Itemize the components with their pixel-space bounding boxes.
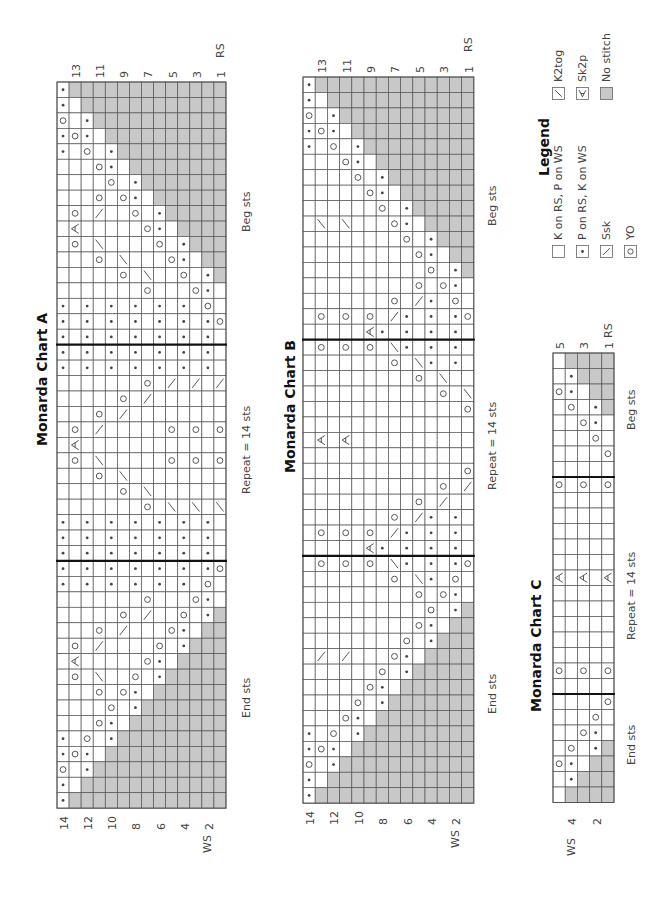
- stitch-cell: [315, 401, 327, 416]
- stitch-cell: [190, 283, 202, 298]
- stitch-cell: [602, 601, 614, 617]
- no-stitch-cell: [401, 154, 413, 169]
- stitch-cell: [81, 638, 93, 653]
- stitch-cell: [93, 484, 105, 499]
- stitch-cell: [565, 632, 577, 648]
- stitch-cell: [154, 406, 166, 421]
- stitch-cell: [69, 267, 81, 282]
- no-stitch-cell: [449, 232, 461, 247]
- stitch-cell: [388, 664, 400, 679]
- no-stitch-cell: [93, 793, 105, 808]
- stitch-cell: [69, 360, 81, 375]
- stitch-cell: [364, 680, 376, 695]
- no-stitch-cell: [178, 777, 190, 792]
- sk2p-icon: [576, 87, 589, 100]
- purl-dot-icon: [430, 516, 433, 519]
- purl-dot-icon: [594, 747, 597, 750]
- stitch-cell: [388, 602, 400, 617]
- stitch-cell: [413, 417, 425, 432]
- stitch-cell: [590, 446, 602, 462]
- stitch-cell: [190, 329, 202, 344]
- legend-label: No stitch: [600, 33, 613, 82]
- legend-item: K on RS, P on WS: [552, 145, 565, 258]
- stitch-cell: [590, 555, 602, 571]
- stitch-cell: [303, 510, 315, 525]
- stitch-cell: [105, 468, 117, 483]
- no-stitch-cell: [166, 777, 178, 792]
- no-stitch-cell: [462, 92, 474, 107]
- purl-dot-icon: [182, 336, 185, 339]
- no-stitch-cell: [425, 123, 437, 138]
- no-stitch-cell: [352, 123, 364, 138]
- stitch-cell: [340, 386, 352, 401]
- stitch-cell: [577, 539, 589, 555]
- stitch-cell: [327, 293, 339, 308]
- stitch-cell: [553, 632, 565, 648]
- purl-dot-icon: [62, 135, 65, 138]
- no-stitch-cell: [437, 139, 449, 154]
- stitch-cell: [388, 618, 400, 633]
- stitch-cell: [553, 353, 565, 369]
- no-stitch-cell: [93, 113, 105, 128]
- stitch-cell: [388, 649, 400, 664]
- stitch-cell: [315, 154, 327, 169]
- no-stitch-cell: [214, 144, 226, 159]
- stitch-cell: [141, 206, 153, 221]
- stitch-cell: [413, 633, 425, 648]
- stitch-cell: [129, 623, 141, 638]
- stitch-cell: [340, 710, 352, 725]
- stitch-cell: [315, 525, 327, 540]
- stitch-cell: [166, 360, 178, 375]
- stitch-cell: [401, 602, 413, 617]
- stitch-cell: [340, 201, 352, 216]
- stitch-cell: [602, 477, 614, 493]
- stitch-cell: [81, 592, 93, 607]
- stitch-cell: [602, 710, 614, 726]
- stitch-cell: [413, 309, 425, 324]
- stitch-cell: [93, 715, 105, 730]
- rs-row-number: 1: [215, 71, 228, 78]
- legend-item: P on RS, K on WS: [576, 145, 589, 258]
- purl-dot-icon: [134, 181, 137, 184]
- no-stitch-cell: [202, 82, 214, 97]
- stitch-cell: [577, 694, 589, 710]
- purl-dot-icon: [86, 366, 89, 369]
- purl-dot-icon: [158, 583, 161, 586]
- stitch-cell: [413, 386, 425, 401]
- stitch-cell: [154, 499, 166, 514]
- stitch-cell: [449, 448, 461, 463]
- no-stitch-cell: [214, 669, 226, 684]
- stitch-cell: [364, 232, 376, 247]
- stitch-cell: [315, 247, 327, 262]
- stitch-cell: [553, 648, 565, 664]
- stitch-cell: [462, 324, 474, 339]
- no-stitch-cell: [214, 607, 226, 622]
- purl-dot-icon: [405, 547, 408, 550]
- stitch-cell: [315, 618, 327, 633]
- no-stitch-cell: [190, 82, 202, 97]
- stitch-cell: [364, 556, 376, 571]
- no-stitch-cell: [202, 777, 214, 792]
- stitch-cell: [57, 468, 69, 483]
- ws-row-number: 10: [353, 811, 366, 825]
- stitch-cell: [340, 510, 352, 525]
- stitch-cell: [105, 252, 117, 267]
- no-stitch-cell: [437, 77, 449, 92]
- stitch-cell: [352, 293, 364, 308]
- stitch-cell: [154, 391, 166, 406]
- no-stitch-cell: [190, 113, 202, 128]
- stitch-cell: [202, 422, 214, 437]
- stitch-cell: [425, 386, 437, 401]
- stitch-cell: [376, 510, 388, 525]
- no-stitch-cell: [462, 757, 474, 772]
- no-stitch-cell: [166, 746, 178, 761]
- stitch-cell: [154, 437, 166, 452]
- no-stitch-cell: [602, 353, 614, 369]
- stitch-cell: [388, 201, 400, 216]
- stitch-cell: [602, 415, 614, 431]
- no-stitch-cell: [462, 185, 474, 200]
- stitch-cell: [413, 262, 425, 277]
- stitch-cell: [364, 355, 376, 370]
- purl-dot-icon: [454, 562, 457, 565]
- purl-dot-icon: [454, 531, 457, 534]
